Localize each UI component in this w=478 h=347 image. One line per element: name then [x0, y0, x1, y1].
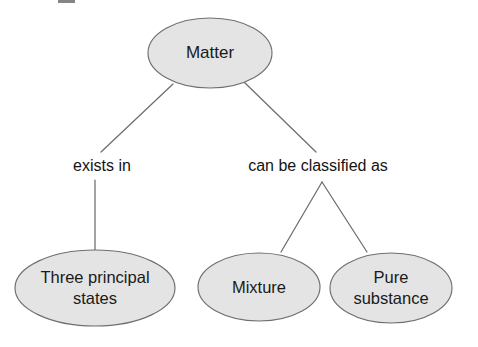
node-matter-label: Matter	[186, 43, 235, 62]
edge-classified-to-mixture	[281, 182, 322, 252]
concept-map-diagram: Matter Three principal states Mixture Pu…	[0, 0, 478, 347]
node-pure-substance-label-line1: Pure	[374, 268, 409, 286]
edge-matter-to-can-be-classified-as	[244, 82, 316, 152]
node-three-principal-states-label-line2: states	[73, 289, 117, 307]
node-mixture-label: Mixture	[232, 278, 286, 296]
node-three-principal-states-shape	[15, 250, 175, 326]
node-three-principal-states-label-line1: Three principal	[40, 268, 149, 286]
node-pure-substance[interactable]: Pure substance	[330, 253, 452, 323]
edge-classified-to-pure-substance	[322, 182, 367, 252]
edge-label-can-be-classified-as: can be classified as	[248, 157, 388, 174]
node-pure-substance-label-line2: substance	[353, 289, 428, 307]
node-pure-substance-shape	[330, 253, 452, 323]
edge-matter-to-exists-in	[101, 84, 173, 152]
node-matter[interactable]: Matter	[148, 18, 272, 88]
edge-label-exists-in: exists in	[73, 157, 131, 174]
concept-map-canvas: Matter Three principal states Mixture Pu…	[0, 0, 478, 347]
node-mixture[interactable]: Mixture	[198, 253, 320, 321]
node-three-principal-states[interactable]: Three principal states	[15, 250, 175, 326]
